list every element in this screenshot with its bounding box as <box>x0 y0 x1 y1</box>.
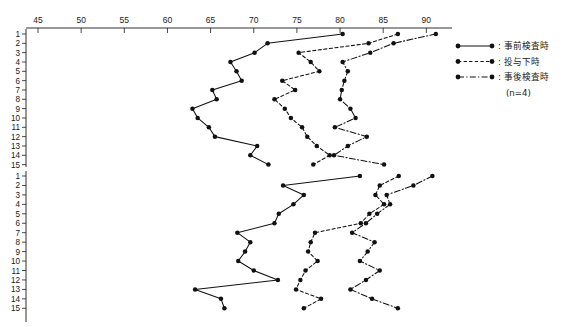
row-label: 7 <box>15 86 20 95</box>
data-point <box>358 259 363 264</box>
row-label: 1 <box>15 172 20 181</box>
legend-label: : 事後検査時 <box>498 71 549 82</box>
data-point <box>266 162 271 167</box>
x-tick-label: 65 <box>206 15 216 25</box>
data-point <box>294 287 299 292</box>
data-point <box>302 193 307 198</box>
data-point <box>348 287 353 292</box>
data-point <box>306 249 311 254</box>
data-point <box>340 88 345 93</box>
data-point <box>296 50 301 55</box>
row-label: 2 <box>15 181 20 190</box>
row-label: 6 <box>15 219 20 228</box>
row-label: 3 <box>15 49 20 58</box>
data-point <box>378 183 383 188</box>
legend-item: : 事後検査時 <box>456 71 549 82</box>
data-series <box>332 32 438 167</box>
data-point <box>277 212 282 217</box>
data-point <box>214 97 219 102</box>
data-point <box>228 60 233 65</box>
data-point <box>308 60 313 65</box>
upper-panel: 123456789101112131415 <box>11 29 438 170</box>
data-point <box>353 116 358 121</box>
data-point <box>195 116 200 121</box>
data-point <box>213 134 218 139</box>
data-point <box>430 174 435 179</box>
data-point <box>364 221 369 226</box>
data-point <box>340 60 345 65</box>
data-point <box>388 202 393 207</box>
data-point <box>348 106 353 111</box>
data-series <box>348 174 434 311</box>
x-tick-label: 80 <box>335 15 345 25</box>
data-point <box>315 144 320 149</box>
data-point <box>375 212 380 217</box>
row-label: 4 <box>15 58 20 67</box>
data-point <box>190 106 195 111</box>
row-label: 4 <box>15 200 20 209</box>
data-point <box>333 125 338 130</box>
row-label: 12 <box>11 276 21 285</box>
row-label: 5 <box>15 210 20 219</box>
row-label: 15 <box>11 161 21 170</box>
data-point <box>305 134 310 139</box>
data-point <box>302 306 307 311</box>
data-point <box>193 287 198 292</box>
row-label: 8 <box>15 238 20 247</box>
row-label: 13 <box>11 142 21 151</box>
data-point <box>283 106 288 111</box>
data-point <box>272 97 277 102</box>
row-label: 14 <box>11 295 21 304</box>
data-point <box>252 268 257 273</box>
row-label: 5 <box>15 67 20 76</box>
data-series <box>190 32 345 167</box>
row-label: 7 <box>15 229 20 238</box>
data-point <box>367 212 372 217</box>
legend-label: : 投与下時 <box>498 56 540 67</box>
row-label: 10 <box>11 257 21 266</box>
x-tick-label: 70 <box>249 15 259 25</box>
data-point <box>298 278 303 283</box>
data-point <box>222 306 227 311</box>
data-point <box>281 183 286 188</box>
data-point <box>346 69 351 74</box>
x-tick-label: 45 <box>33 15 43 25</box>
row-label: 14 <box>11 151 21 160</box>
line-chart-figure: 4550556065707580859012345678910111213141… <box>0 0 571 327</box>
data-point <box>370 297 375 302</box>
data-point <box>338 97 343 102</box>
data-point <box>248 153 253 158</box>
row-label: 9 <box>15 105 20 114</box>
data-point <box>359 221 364 226</box>
data-point <box>276 278 281 283</box>
data-point <box>210 88 215 93</box>
data-point <box>378 268 383 273</box>
data-point <box>327 153 332 158</box>
data-point <box>372 240 377 245</box>
lower-panel: 123456789101112131415 <box>11 171 435 322</box>
data-point <box>313 230 318 235</box>
legend-item: : 投与下時 <box>456 56 540 67</box>
row-label: 1 <box>15 30 20 39</box>
data-point <box>368 50 373 55</box>
data-point <box>255 144 260 149</box>
row-label: 10 <box>11 114 21 123</box>
data-point <box>346 144 351 149</box>
data-series <box>272 32 400 167</box>
data-point <box>248 240 253 245</box>
legend-label: : 事前検査時 <box>498 40 549 51</box>
data-point <box>252 50 256 55</box>
data-point <box>280 78 285 83</box>
data-point <box>303 268 308 273</box>
row-label: 2 <box>15 39 20 48</box>
data-point <box>384 193 389 198</box>
legend-item: : 事前検査時 <box>456 40 549 51</box>
data-point <box>411 183 416 188</box>
row-label: 12 <box>11 133 21 142</box>
x-tick-label: 50 <box>76 15 86 25</box>
data-point <box>272 221 277 226</box>
data-point <box>293 88 298 93</box>
data-point <box>373 193 378 198</box>
figure-page: 4550556065707580859012345678910111213141… <box>0 0 571 327</box>
row-label: 11 <box>12 123 21 132</box>
